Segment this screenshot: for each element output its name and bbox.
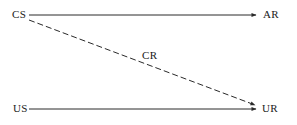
node-cs: CS [12,9,26,20]
diagram-canvas [0,0,297,125]
node-ar: AR [263,9,279,20]
edge-label-cr: CR [142,50,157,61]
edge-cs-to-ur-dashed [29,20,255,105]
node-us: US [13,103,28,114]
node-ur: UR [262,103,278,114]
